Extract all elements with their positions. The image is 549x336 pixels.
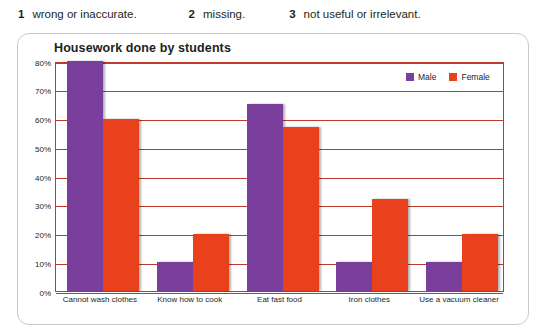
exercise-answer-2-number: 2 — [189, 8, 195, 20]
exercise-answer-3-text: not useful or irrelevant. — [304, 8, 421, 20]
legend-label-female: Female — [461, 72, 489, 82]
chart-legend: Male Female — [406, 72, 490, 82]
exercise-answer-1-number: 1 — [18, 8, 24, 20]
bars-layer — [56, 63, 503, 291]
y-axis-tick-label: 40% — [35, 173, 51, 182]
y-axis-tick-label: 60% — [35, 116, 51, 125]
bar-female — [103, 119, 139, 292]
chart-panel: Housework done by students Male Female 0… — [17, 33, 529, 325]
gridline: 0% — [56, 293, 503, 294]
bar-group — [56, 63, 146, 291]
exercise-answer-2: 2 missing. — [189, 8, 246, 20]
bar-female — [372, 199, 408, 291]
y-axis-tick-label: 10% — [35, 259, 51, 268]
y-axis-tick-label: 30% — [35, 202, 51, 211]
legend-swatch-male-icon — [406, 73, 414, 81]
bar-female — [283, 127, 319, 291]
y-axis-tick-label: 0% — [39, 288, 51, 297]
bar-male — [426, 262, 462, 291]
bar-group — [415, 63, 505, 291]
x-axis-category-label: Iron clothes — [349, 295, 390, 304]
x-axis-category-label: Eat fast food — [257, 295, 302, 304]
chart-title: Housework done by students — [54, 41, 231, 55]
exercise-answers-row: 1 wrong or inaccurate. 2 missing. 3 not … — [0, 0, 549, 28]
bar-group — [146, 63, 236, 291]
y-axis-tick-label: 20% — [35, 231, 51, 240]
x-axis-category-label: Use a vacuum cleaner — [419, 295, 499, 304]
y-axis-tick-label: 70% — [35, 87, 51, 96]
bar-female — [193, 234, 229, 292]
exercise-answer-1-text: wrong or inaccurate. — [32, 8, 136, 20]
legend-item-female: Female — [449, 72, 489, 82]
bar-male — [336, 262, 372, 291]
x-axis-category-label: Know how to cook — [157, 295, 222, 304]
bar-group — [236, 63, 326, 291]
plot-area: 0%10%20%30%40%50%60%70%80% — [55, 62, 504, 292]
bar-group — [325, 63, 415, 291]
bar-male — [157, 262, 193, 291]
y-axis-tick-label: 50% — [35, 144, 51, 153]
exercise-answer-3: 3 not useful or irrelevant. — [289, 8, 420, 20]
y-axis-tick-label: 80% — [35, 58, 51, 67]
bar-female — [462, 234, 498, 292]
exercise-answer-2-text: missing. — [203, 8, 245, 20]
bar-male — [247, 104, 283, 291]
exercise-answer-3-number: 3 — [289, 8, 295, 20]
x-axis-category-label: Cannot wash clothes — [63, 295, 137, 304]
legend-label-male: Male — [418, 72, 436, 82]
legend-swatch-female-icon — [449, 73, 457, 81]
x-axis-labels: Cannot wash clothesKnow how to cookEat f… — [55, 295, 504, 311]
exercise-answer-1: 1 wrong or inaccurate. — [18, 8, 137, 20]
bar-male — [67, 61, 103, 291]
legend-item-male: Male — [406, 72, 436, 82]
